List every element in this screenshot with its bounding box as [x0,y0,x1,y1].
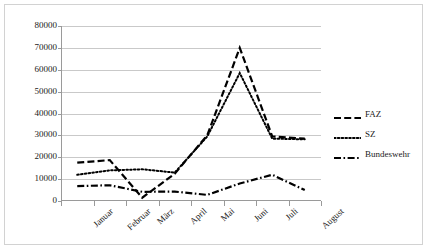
dashed-line-swatch [334,109,361,119]
dotted-line-swatch [334,129,361,139]
y-axis-tick-label: 30000 [9,130,57,139]
series-line-bundeswehr [77,175,305,195]
y-axis-tick-label: 10000 [9,174,57,183]
x-axis-tick-label: Juni [252,206,270,223]
legend-item-faz[interactable]: FAZ [334,105,429,122]
chart-legend: FAZSZBundeswehr [334,105,429,165]
chart-frame: 8000070000600005000040000300002000010000… [4,4,423,245]
legend-label: Bundeswehr [365,149,410,159]
y-axis-tick-label: 50000 [9,87,57,96]
x-axis-tick-label: Juli [284,206,300,222]
x-axis-tick-label: Januar [91,206,115,229]
y-axis-tick-label: 40000 [9,109,57,118]
dash-dot-line-swatch [334,149,361,159]
series-line-sz [77,73,305,175]
x-axis-tick-label: März [155,206,176,226]
legend-item-sz[interactable]: SZ [334,125,429,142]
series-layer [61,26,321,201]
y-axis-tick-label: 60000 [9,65,57,74]
y-axis-labels: 8000070000600005000040000300002000010000… [5,26,57,201]
x-axis-labels: JanuarFebruarMärzAprilMaiJuniJuliAugust [5,204,429,251]
legend-label: SZ [365,129,376,139]
x-axis-tick-label: Februar [125,206,152,232]
y-axis-tick-label: 80000 [9,21,57,30]
x-axis-tick-label: August [319,206,345,231]
x-axis-tick-label: Mai [219,206,236,223]
legend-label: FAZ [365,109,381,119]
y-axis-tick-label: 20000 [9,152,57,161]
y-axis-tick-label: 70000 [9,43,57,52]
legend-item-bundeswehr[interactable]: Bundeswehr [334,145,429,162]
x-axis-tick-label: April [188,206,209,226]
